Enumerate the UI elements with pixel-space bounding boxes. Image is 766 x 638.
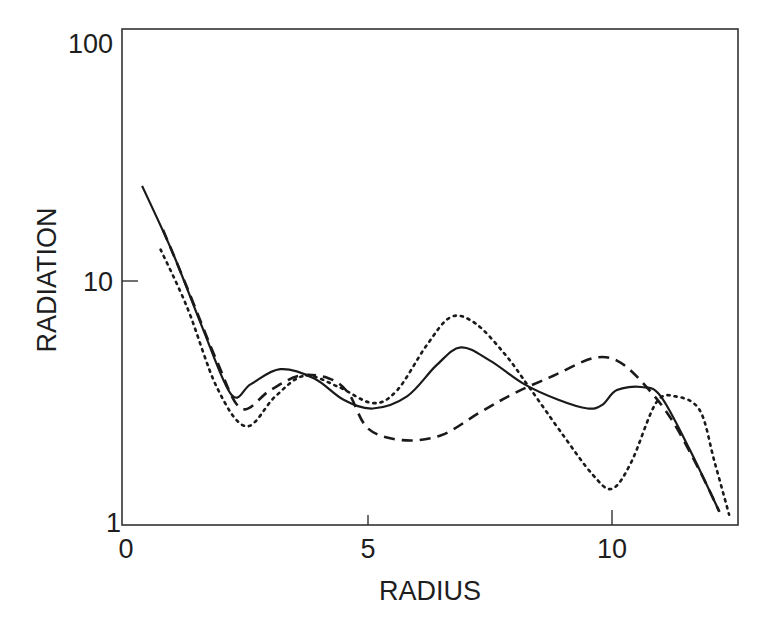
x-tick-label-0: 0 xyxy=(118,534,133,564)
series-dashed-line xyxy=(163,230,719,512)
x-tick-label-5: 5 xyxy=(360,534,375,564)
series-dotted-line xyxy=(161,250,730,515)
y-tick-label-100: 100 xyxy=(68,29,113,59)
plot-frame xyxy=(122,29,738,525)
x-axis-title: RADIUS xyxy=(379,576,481,606)
y-axis-title: RADIATION xyxy=(32,207,62,352)
series-solid-line xyxy=(142,186,719,512)
x-tick-label-10: 10 xyxy=(597,534,627,564)
series-layer xyxy=(142,186,729,515)
y-tick-label-10: 10 xyxy=(83,267,113,297)
radiation-chart: 100 10 1 0 5 10 RADIUS RADIATION xyxy=(0,0,766,638)
